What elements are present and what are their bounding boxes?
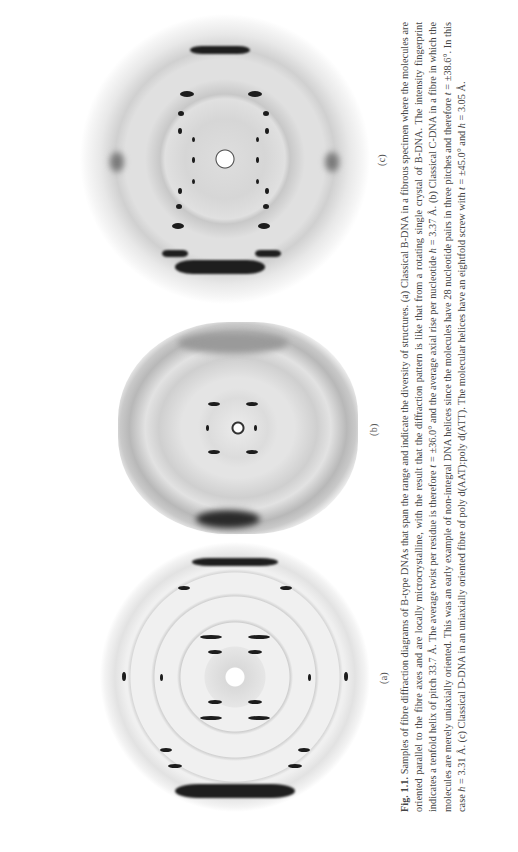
layer-line-spot — [176, 204, 182, 209]
equatorial-band-left — [175, 260, 265, 274]
layer-line-spot — [248, 91, 262, 97]
panel-b: (b) — [118, 319, 363, 534]
layer-line-spot — [160, 748, 172, 752]
rotated-figure-page: (a) (b) — [0, 0, 518, 852]
layer-line-spot — [168, 764, 182, 768]
layer-line-spot — [298, 748, 310, 752]
layer-line-spot — [246, 450, 258, 454]
equatorial-band-right — [192, 558, 278, 566]
meridional-smear-bottom — [325, 152, 339, 172]
meridional-spot-top — [122, 672, 126, 681]
layer-line-spot — [256, 179, 259, 184]
layer-line-spot — [288, 764, 302, 768]
panel-label-a: (a) — [378, 672, 389, 684]
caption-variable: t — [427, 465, 438, 468]
equatorial-band-left — [175, 784, 295, 798]
meridional-spot-bottom — [344, 672, 348, 681]
d-dna-diffraction-image — [80, 14, 370, 304]
panel-label-c: (c) — [376, 154, 387, 166]
layer-line-spot — [263, 204, 269, 209]
meridional-spot — [206, 425, 209, 431]
layer-line-spot — [248, 716, 270, 720]
equatorial-band-right — [178, 332, 288, 354]
layer-line-spot — [192, 179, 195, 184]
caption-variable: h — [456, 787, 467, 792]
panel-c: (c) — [80, 14, 370, 304]
layer-line-spot — [256, 157, 259, 163]
meridional-spot — [254, 425, 257, 431]
caption-variable: t — [456, 187, 467, 190]
layer-line-spot — [178, 111, 184, 116]
layer-line-spot — [200, 635, 222, 639]
layer-line-spot — [258, 223, 270, 229]
layer-line-spot — [192, 137, 195, 142]
meridional-smear-top — [110, 152, 124, 172]
layer-line-spot — [248, 650, 262, 654]
caption-text: = ±36.0° and the average axial rise per … — [427, 253, 438, 465]
layer-line-spot — [180, 91, 194, 97]
layer-line-spot — [178, 586, 190, 590]
caption-text: = 3.05 Å. — [456, 82, 467, 124]
equatorial-band-left — [196, 510, 260, 528]
meridional-spot — [160, 674, 163, 681]
equatorial-spot-left — [255, 250, 281, 257]
caption-variable: t — [442, 92, 453, 95]
layer-line-spot — [208, 650, 222, 654]
layer-line-spot — [178, 128, 182, 134]
caption-text: = 3.31 Å. (c) Classical D-DNA in an unia… — [456, 190, 467, 787]
figure-caption: Fig. 1.1. Samples of fibre diffraction d… — [398, 22, 469, 812]
layer-line-spot — [265, 188, 269, 194]
layer-line-spot — [280, 586, 292, 590]
layer-line-spot — [265, 128, 269, 134]
c-dna-diffraction-image — [118, 322, 358, 534]
caption-text: = ±45.0° and — [456, 128, 467, 187]
layer-line-spot — [172, 223, 184, 229]
layer-line-spot — [263, 111, 269, 116]
layer-line-spot — [248, 635, 270, 639]
layer-line-spot — [248, 700, 262, 704]
layer-line-spot — [246, 402, 258, 406]
layer-line-spot — [208, 402, 220, 406]
meridional-spot — [308, 674, 311, 681]
equatorial-spot-left — [162, 250, 188, 257]
equatorial-band-right — [190, 46, 250, 54]
caption-variable: h — [427, 248, 438, 253]
layer-line-spot — [200, 716, 222, 720]
layer-line-spot — [208, 450, 220, 454]
layer-line-spot — [178, 188, 182, 194]
layer-line-spot — [256, 137, 259, 142]
panel-label-b: (b) — [368, 423, 379, 436]
layer-line-spot — [208, 700, 222, 704]
layer-line-spot — [192, 157, 195, 163]
panel-a: (a) — [100, 537, 370, 812]
figure-number: Fig. 1.1. — [399, 777, 410, 812]
caption-variable: h — [456, 123, 467, 128]
b-dna-diffraction-image — [100, 542, 370, 812]
